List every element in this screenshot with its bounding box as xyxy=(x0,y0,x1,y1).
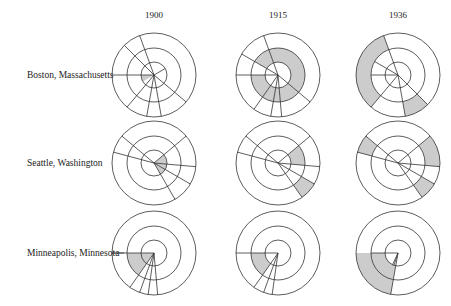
polar-chart xyxy=(236,211,320,295)
radial-line xyxy=(147,75,154,116)
shaded-sector xyxy=(293,177,314,198)
radial-line xyxy=(278,163,314,184)
polar-chart xyxy=(112,33,196,117)
radial-line xyxy=(384,36,398,75)
radial-line xyxy=(398,163,434,184)
radial-line xyxy=(127,75,154,107)
radial-line xyxy=(272,253,278,295)
radial-line xyxy=(154,163,190,184)
polar-chart xyxy=(112,211,196,295)
radial-line xyxy=(154,75,186,102)
shaded-sector xyxy=(356,253,396,294)
polar-diagram-grid xyxy=(0,0,451,306)
shaded-sector xyxy=(419,136,440,167)
radial-line xyxy=(154,136,186,163)
polar-chart xyxy=(356,33,440,117)
polar-chart xyxy=(112,121,196,205)
shaded-sector xyxy=(356,36,389,108)
shaded-sector xyxy=(141,75,154,82)
radial-line xyxy=(154,253,158,295)
radial-line xyxy=(140,36,154,75)
radial-line xyxy=(154,75,161,116)
polar-chart xyxy=(356,211,440,295)
polar-chart xyxy=(236,121,320,205)
polar-chart xyxy=(236,33,320,117)
radial-line xyxy=(154,69,165,76)
radial-line xyxy=(375,62,398,76)
shaded-sector xyxy=(288,146,305,166)
shaded-sector xyxy=(251,253,271,275)
radial-line xyxy=(124,45,154,75)
polar-chart xyxy=(356,121,440,205)
shaded-sector xyxy=(413,177,434,198)
